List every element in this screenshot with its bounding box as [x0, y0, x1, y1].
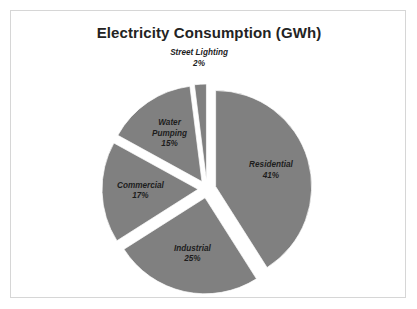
- pie-label-line: Water: [158, 119, 181, 128]
- pie-label-line: 15%: [161, 140, 178, 149]
- pie-label-line: Street Lighting: [170, 48, 228, 57]
- chart-frame: Electricity Consumption (GWh) Residentia…: [10, 10, 406, 298]
- pie-label-line: Industrial: [174, 244, 212, 253]
- pie-label-line: Residential: [249, 160, 293, 169]
- pie-label-line: Commercial: [117, 181, 165, 190]
- pie-chart: Residential41%Industrial25%Commercial17%…: [11, 37, 407, 295]
- pie-label-line: 2%: [192, 59, 206, 68]
- pie-label-line: 17%: [132, 192, 149, 201]
- pie-label-street-lighting: Street Lighting2%: [170, 48, 228, 68]
- pie-label-line: Pumping: [152, 129, 187, 138]
- pie-label-line: 25%: [183, 254, 201, 263]
- pie-label-line: 41%: [262, 171, 280, 180]
